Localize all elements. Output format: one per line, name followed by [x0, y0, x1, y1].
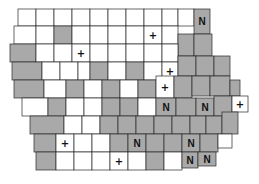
county	[48, 98, 66, 116]
county	[206, 116, 222, 134]
county-unshaded	[138, 98, 156, 116]
county-shaded	[136, 116, 154, 134]
county	[14, 80, 44, 98]
county-unshaded	[218, 134, 232, 148]
county	[144, 44, 162, 62]
county	[138, 98, 156, 116]
county: +	[144, 26, 162, 44]
county-shaded	[214, 56, 230, 76]
county	[36, 26, 54, 44]
county-shaded	[54, 26, 72, 44]
county-unshaded	[108, 9, 126, 26]
county-unshaded	[74, 134, 92, 152]
county-unshaded	[108, 62, 126, 80]
county	[162, 44, 178, 62]
county-unshaded	[90, 44, 108, 62]
county	[164, 152, 182, 170]
county-shaded	[10, 44, 36, 62]
county-shaded	[138, 80, 156, 98]
county-shaded	[30, 116, 64, 134]
county-shaded	[12, 62, 42, 80]
county	[66, 80, 84, 98]
n-marker: N	[203, 154, 210, 165]
county	[78, 62, 90, 80]
county	[90, 9, 108, 26]
county	[164, 134, 182, 152]
county	[14, 26, 36, 44]
county	[108, 26, 126, 44]
plus-marker-icon: +	[149, 30, 157, 41]
county: +	[156, 76, 174, 98]
county	[44, 80, 66, 98]
plus-marker-icon: +	[115, 156, 123, 167]
county	[128, 152, 146, 170]
county-shaded	[196, 56, 214, 76]
county	[136, 116, 154, 134]
county-shaded	[110, 134, 128, 152]
n-marker: N	[201, 102, 208, 113]
county: N	[198, 152, 216, 166]
county	[22, 98, 48, 116]
county	[30, 116, 64, 134]
county-unshaded	[92, 134, 110, 152]
county-unshaded	[18, 9, 36, 26]
county-unshaded	[56, 152, 74, 170]
county-shaded	[48, 98, 66, 116]
county	[84, 80, 102, 98]
county	[18, 9, 36, 26]
county-unshaded	[22, 98, 48, 116]
county-unshaded	[108, 44, 126, 62]
county-unshaded	[82, 116, 100, 134]
county-shaded	[120, 98, 138, 116]
county-shaded	[210, 76, 230, 96]
county-shaded	[66, 80, 84, 98]
county	[36, 44, 54, 62]
county	[126, 9, 144, 26]
county	[54, 9, 72, 26]
county	[36, 9, 54, 26]
county	[102, 98, 120, 116]
county-shaded	[102, 98, 120, 116]
county	[230, 80, 240, 96]
county	[120, 98, 138, 116]
county-shaded	[154, 116, 172, 134]
county-unshaded	[36, 9, 54, 26]
county-unshaded	[84, 80, 102, 98]
county	[92, 152, 110, 170]
county: +	[232, 96, 248, 112]
county-shaded	[164, 134, 182, 152]
plus-marker-icon: +	[236, 99, 244, 110]
county-shaded	[90, 62, 108, 80]
county-unshaded	[66, 98, 84, 116]
n-marker: N	[133, 138, 140, 149]
county	[54, 26, 72, 44]
county	[178, 56, 196, 76]
county-shaded	[118, 116, 136, 134]
county-unshaded	[44, 80, 66, 98]
county-unshaded	[144, 44, 162, 62]
county-shaded	[190, 116, 206, 134]
county	[54, 44, 72, 62]
county-shaded	[126, 62, 144, 80]
county-shaded	[146, 152, 164, 170]
county	[42, 62, 60, 80]
county	[118, 116, 136, 134]
county	[82, 116, 100, 134]
county-shaded	[174, 76, 192, 98]
county	[34, 134, 56, 152]
county	[10, 44, 36, 62]
county: +	[56, 134, 74, 152]
county	[66, 98, 84, 116]
county	[102, 80, 120, 98]
county	[192, 76, 210, 96]
county-shaded	[176, 98, 196, 116]
county	[178, 34, 194, 56]
county-unshaded	[126, 26, 144, 44]
county	[210, 76, 230, 96]
county	[72, 26, 90, 44]
county: N	[128, 134, 146, 152]
county	[196, 56, 214, 76]
county	[90, 62, 108, 80]
county	[108, 9, 126, 26]
county-unshaded	[178, 9, 194, 26]
